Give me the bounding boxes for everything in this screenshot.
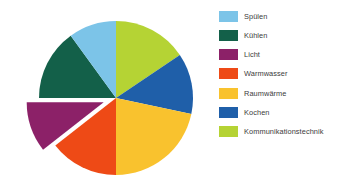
legend-swatch-icon-kuehlen <box>219 30 238 41</box>
chart-legend: Spülen Kühlen Licht Warmwasser Raumwärme… <box>219 10 345 170</box>
pie-plot-area <box>0 0 215 179</box>
legend-item-spuelen[interactable]: Spülen <box>219 10 345 22</box>
legend-label-spuelen: Spülen <box>244 12 267 21</box>
legend-item-kochen[interactable]: Kochen <box>219 106 345 118</box>
legend-item-kommunikationstechnik[interactable]: Kommunikationstechnik <box>219 126 345 138</box>
legend-swatch-icon-warmwasser <box>219 68 238 79</box>
legend-item-licht[interactable]: Licht <box>219 49 345 61</box>
legend-item-raumwaerme[interactable]: Raumwärme <box>219 87 345 99</box>
legend-item-kuehlen[interactable]: Kühlen <box>219 29 345 41</box>
pie-svg <box>0 0 215 179</box>
legend-label-warmwasser: Warmwasser <box>244 69 288 78</box>
pie-slice-group <box>27 21 193 175</box>
legend-swatch-icon-raumwaerme <box>219 88 238 99</box>
legend-label-kochen: Kochen <box>244 108 270 117</box>
legend-swatch-icon-kochen <box>219 107 238 118</box>
legend-label-licht: Licht <box>244 50 260 59</box>
legend-label-kommunikationstechnik: Kommunikationstechnik <box>244 127 324 136</box>
legend-item-warmwasser[interactable]: Warmwasser <box>219 68 345 80</box>
legend-label-kuehlen: Kühlen <box>244 31 267 40</box>
legend-label-raumwaerme: Raumwärme <box>244 89 287 98</box>
pie-chart-figure: Spülen Kühlen Licht Warmwasser Raumwärme… <box>0 0 345 179</box>
legend-swatch-icon-spuelen <box>219 11 238 22</box>
legend-swatch-icon-licht <box>219 49 238 60</box>
legend-swatch-icon-kommunikationstechnik <box>219 126 238 137</box>
